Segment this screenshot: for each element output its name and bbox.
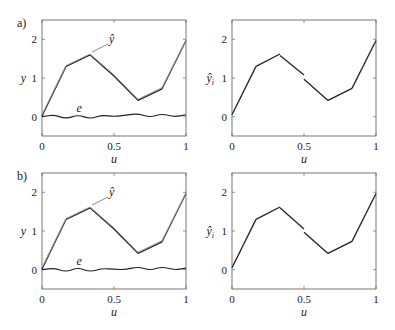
local-model-segment — [256, 207, 280, 219]
yhat-annotation: ŷ — [108, 185, 115, 199]
x-axis-label: u — [301, 152, 307, 166]
y-axis-label: ŷi — [205, 71, 214, 87]
error-curve — [42, 114, 186, 118]
local-model-segment — [256, 54, 280, 66]
x-tick-label: 0.5 — [297, 293, 311, 305]
x-tick-label: 1 — [373, 293, 379, 305]
x-axis-label: u — [301, 305, 307, 319]
y-tick-label: 1 — [222, 72, 228, 84]
local-model-segment — [280, 208, 304, 229]
yhat-annotation: ŷ — [108, 32, 115, 46]
estimate-curve — [42, 193, 186, 268]
x-tick-label: 0 — [39, 293, 45, 305]
figure: a) b) 00.51012uyŷe00.51012uŷi00.51012uyŷ… — [0, 0, 395, 330]
panel-label-b: b) — [17, 169, 27, 183]
y-tick-label: 2 — [222, 186, 228, 198]
axes-frame — [232, 20, 376, 136]
x-tick-label: 1 — [183, 140, 189, 152]
plot-axes-1: 00.51012uŷi — [205, 20, 378, 166]
y-tick-label: 0 — [222, 264, 228, 276]
y-axis-label: y — [20, 71, 27, 85]
y-tick-label: 1 — [32, 72, 38, 84]
e-annotation: e — [77, 101, 83, 115]
local-model-segment — [328, 88, 352, 100]
error-curve — [42, 267, 186, 271]
y-tick-label: 2 — [222, 33, 228, 45]
estimate-curve — [42, 40, 186, 115]
local-model-segment — [304, 232, 328, 253]
x-tick-label: 0 — [229, 140, 235, 152]
output-curve — [42, 194, 186, 269]
local-model-segment — [352, 194, 376, 242]
local-model-segment — [280, 56, 304, 75]
plot-axes-2: 00.51012uyŷe — [20, 173, 189, 319]
x-tick-label: 0 — [39, 140, 45, 152]
x-tick-label: 0 — [229, 293, 235, 305]
local-model-segment — [304, 79, 328, 100]
local-model-segment — [232, 66, 256, 114]
x-tick-label: 0.5 — [107, 140, 121, 152]
e-annotation: e — [77, 254, 83, 268]
panel-label-a: a) — [17, 16, 26, 30]
local-model-segment — [328, 241, 352, 253]
y-tick-label: 2 — [32, 33, 38, 45]
plot-axes-0: 00.51012uyŷe — [20, 20, 189, 166]
y-tick-label: 0 — [222, 111, 228, 123]
x-axis-label: u — [111, 305, 117, 319]
x-tick-label: 0.5 — [297, 140, 311, 152]
local-model-segment — [232, 219, 256, 267]
y-tick-label: 0 — [32, 264, 38, 276]
output-curve — [42, 41, 186, 116]
y-tick-label: 0 — [32, 111, 38, 123]
x-tick-label: 1 — [183, 293, 189, 305]
x-axis-label: u — [111, 152, 117, 166]
local-model-segment — [352, 41, 376, 89]
x-tick-label: 0.5 — [107, 293, 121, 305]
y-axis-label: y — [20, 224, 27, 238]
y-tick-label: 1 — [222, 225, 228, 237]
plot-axes-3: 00.51012uŷi — [205, 173, 378, 319]
axes-frame — [232, 173, 376, 289]
y-axis-label: ŷi — [205, 224, 214, 240]
y-tick-label: 2 — [32, 186, 38, 198]
x-tick-label: 1 — [373, 140, 379, 152]
y-tick-label: 1 — [32, 225, 38, 237]
